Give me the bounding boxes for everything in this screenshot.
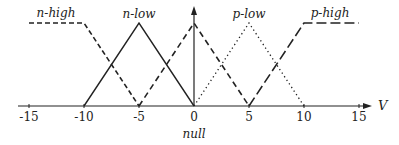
y-axis-arrow-icon	[191, 6, 197, 15]
x-axis-label: V	[378, 98, 389, 113]
x-axis-arrow-icon	[363, 103, 372, 109]
tick-label: 5	[245, 110, 253, 124]
label-null: null	[182, 127, 205, 141]
fuzzy-membership-chart: -15 -10 -5 0 5 10 15 V n-high n-low null…	[0, 0, 399, 145]
label-n-high: n-high	[37, 6, 76, 20]
tick-label: -15	[19, 110, 38, 124]
tick-label: 0	[190, 110, 198, 124]
series-p-high	[249, 23, 359, 106]
tick-label: 10	[296, 110, 311, 124]
series-p-low	[194, 23, 304, 106]
series-n-low	[84, 23, 194, 106]
tick-label: -10	[74, 110, 93, 124]
label-p-low: p-low	[232, 7, 266, 21]
label-n-low: n-low	[122, 7, 156, 21]
tick-label: 15	[351, 110, 366, 124]
tick-label: -5	[133, 110, 145, 124]
series-n-high	[29, 23, 139, 106]
chart-svg: -15 -10 -5 0 5 10 15 V n-high n-low null…	[0, 0, 399, 145]
label-p-high: p-high	[311, 6, 350, 20]
